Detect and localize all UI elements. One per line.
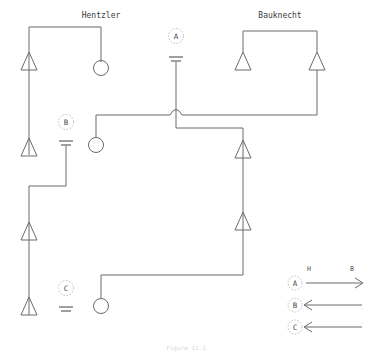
schematic-canvas: Hentzler Bauknecht <box>0 0 372 353</box>
bauknecht-top-bracket <box>243 31 317 52</box>
marker-a-branch <box>169 57 183 110</box>
schematic-diagram: Hentzler Bauknecht <box>0 0 372 353</box>
marker-bubble-c: C <box>59 281 74 296</box>
bauknecht-label: Bauknecht <box>258 11 302 20</box>
marker-label: C <box>64 284 69 293</box>
legend: H B A B C <box>288 265 363 334</box>
bottom-horizontal <box>101 275 243 298</box>
legend-header-left: H <box>307 265 311 273</box>
marker-label: A <box>174 32 179 41</box>
circle-terminal <box>94 61 109 76</box>
bauknecht-group: Bauknecht <box>235 11 325 115</box>
legend-label: B <box>293 301 298 310</box>
marker-bubbles: A B C <box>59 29 184 296</box>
hentzler-top-bracket <box>29 27 101 62</box>
marker-bubble-a: A <box>169 29 184 44</box>
legend-label: C <box>293 323 298 332</box>
marker-bubble-b: B <box>59 115 74 130</box>
legend-row-a: A <box>288 276 363 290</box>
legend-header-right: B <box>350 265 354 273</box>
figure-caption: Figure 11.1 <box>166 344 206 352</box>
marker-label: B <box>64 118 69 127</box>
right-branch <box>235 128 251 275</box>
legend-row-c: C <box>288 320 362 334</box>
circle-terminal <box>94 299 109 314</box>
bus-lower-run <box>176 110 243 128</box>
hentzler-group: Hentzler <box>21 11 120 156</box>
triangle-symbol <box>235 52 251 70</box>
bottom-run <box>94 275 244 314</box>
bus-upper-with-hop <box>96 110 317 116</box>
triangle-symbol <box>309 52 325 70</box>
marker-b-stem <box>29 146 66 315</box>
main-bus <box>89 110 318 153</box>
circle-terminal <box>89 138 104 153</box>
hentzler-label: Hentzler <box>82 11 121 20</box>
marker-c-branch <box>59 307 73 311</box>
legend-label: A <box>293 279 298 288</box>
legend-row-b: B <box>288 298 362 312</box>
